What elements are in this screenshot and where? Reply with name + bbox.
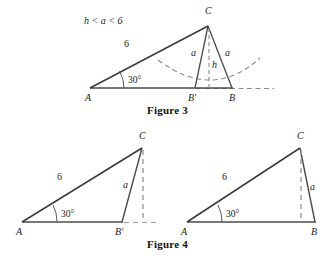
figure-3-diagram: h < a < 6 6 30° a a h C A B' B: [0, 0, 335, 104]
figure3-label-h: h: [212, 59, 217, 70]
figure-3-caption: Figure 3: [0, 104, 335, 116]
figure4-left-vertex-A: A: [15, 226, 23, 237]
figure-4-caption: Figure 4: [0, 238, 335, 250]
figure3-label-six: 6: [124, 38, 129, 49]
figure4-right-vertex-A: A: [180, 226, 188, 237]
figure4-right-label-a: a: [310, 181, 315, 192]
figure4-right-angle-arc: [218, 205, 222, 222]
figure3-angle-arc: [120, 71, 124, 88]
figure3-radius-arc: [158, 58, 260, 80]
figure3-vertex-B: B: [229, 92, 235, 103]
figure4-right-vertex-B: B: [311, 226, 317, 237]
figure4-left-vertex-Bprime: B': [115, 226, 124, 237]
figure4-left-angle-arc: [53, 205, 57, 222]
figure3-angle-label: 30°: [128, 75, 142, 85]
figure4-left-label-six: 6: [57, 171, 62, 182]
figure3-side-CBprime: [195, 26, 208, 88]
figure3-label-a-left: a: [191, 47, 196, 58]
figure3-vertex-C: C: [205, 5, 212, 16]
figure3-vertex-Bprime: B': [188, 92, 197, 103]
figure3-label-a-right: a: [225, 47, 230, 58]
figure4-right-side-AC: [187, 148, 300, 222]
figure4-right-angle-label: 30°: [226, 209, 240, 219]
figure3-vertex-A: A: [84, 92, 92, 103]
figure4-left-vertex-C: C: [139, 130, 146, 141]
figure3-condition-label: h < a < 6: [84, 15, 123, 26]
geometry-figure-sheet: h < a < 6 6 30° a a h C A B' B Figure 3 …: [0, 0, 335, 262]
figure4-right-vertex-C: C: [297, 130, 304, 141]
figure4-right-label-six: 6: [222, 171, 227, 182]
figure4-left-angle-label: 30°: [61, 209, 75, 219]
figure4-left-label-a: a: [123, 179, 128, 190]
figure-4-diagram: 6 30° a C A B' 6 30° a C A B: [0, 118, 335, 242]
